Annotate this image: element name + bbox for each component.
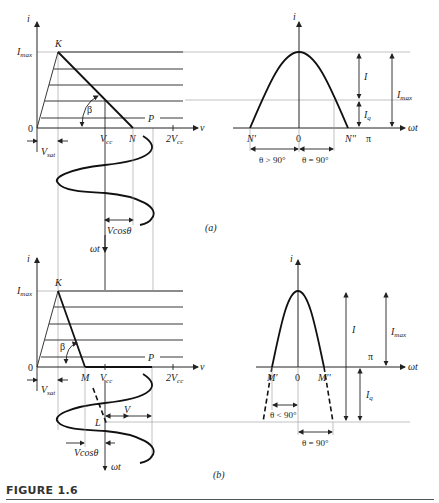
- n-prime-label: N': [246, 133, 257, 144]
- i-amplitude-label: I: [363, 71, 368, 82]
- panel-a-label: (a): [205, 222, 217, 234]
- pi-label: π: [366, 133, 371, 144]
- panel-a-current-waveform: i ωt 0 N' N'' π I Iq Imax θ > 90° θ = 90…: [205, 11, 418, 234]
- caption-rule: [6, 499, 434, 500]
- wt-axis-label: ωt: [90, 243, 100, 254]
- point-p-label: P: [147, 113, 154, 124]
- vcos-theta-label: Vcosθ: [107, 225, 131, 236]
- iq-label: Iq: [363, 109, 371, 122]
- vsat-label-b: Vsat: [41, 384, 56, 397]
- panel-b-output-characteristics: β i v 0 Imax K M P Vcc 2Vcc Vsat ωt V L …: [16, 253, 410, 472]
- theta-gt-90-label: θ > 90°: [259, 155, 286, 165]
- vcos-theta-label-b: Vcosθ: [74, 447, 98, 458]
- vcc-tick-label-b: Vcc: [100, 372, 113, 385]
- theta-lt-90-label: θ < 90°: [270, 410, 297, 420]
- point-k-label-b: K: [54, 277, 63, 288]
- panel-b-label: (b): [213, 469, 225, 481]
- load-line-b: [58, 291, 85, 367]
- vsat-label: Vsat: [41, 146, 56, 159]
- load-line: [58, 52, 133, 128]
- point-n-label: N: [128, 133, 137, 144]
- n-double-prime-label: N'': [344, 133, 357, 144]
- theta-eq-90-label: θ = 90°: [302, 155, 329, 165]
- imax-label: Imax: [16, 46, 33, 59]
- pi-label-b: π: [368, 351, 373, 362]
- panel-a-output-characteristics: β i v 0 Imax K N P Vcc 2Vcc Vsat Vcosθ ω…: [16, 13, 410, 290]
- imax-label-right-b: Imax: [390, 326, 407, 339]
- figure-diagram: β i v 0 Imax K N P Vcc 2Vcc Vsat Vcosθ ω…: [0, 0, 439, 503]
- i-label-right: i: [293, 11, 296, 22]
- i-axis-label-b: i: [27, 253, 30, 264]
- v-amplitude-label: V: [124, 404, 132, 415]
- origin-right-b: 0: [295, 372, 300, 383]
- wt-axis-label-b: ωt: [111, 461, 121, 472]
- panel-b-current-waveform: i ωt 0 M' M'' π I Imax Iq θ < 90° θ = 90…: [213, 253, 418, 481]
- 2vcc-tick-label: 2Vcc: [166, 133, 184, 146]
- i-label-right-b: i: [290, 253, 293, 264]
- vcc-tick-label: Vcc: [100, 133, 113, 146]
- wt-label-right: ωt: [408, 122, 418, 133]
- point-l-label: L: [94, 417, 101, 428]
- 2vcc-tick-label-b: 2Vcc: [166, 372, 184, 385]
- beta-label-b: β: [60, 341, 65, 352]
- origin-label: 0: [28, 123, 33, 134]
- i-amplitude-label-b: I: [351, 324, 356, 335]
- origin-right: 0: [296, 133, 301, 144]
- point-p-label-b: P: [147, 352, 154, 363]
- m-prime-label: M': [266, 372, 278, 383]
- beta-label: β: [87, 104, 92, 115]
- m-double-prime-label: M'': [317, 372, 331, 383]
- imax-label-b: Imax: [16, 285, 33, 298]
- origin-label-b: 0: [28, 362, 33, 373]
- theta-eq-90-label-b: θ = 90°: [302, 438, 329, 448]
- iq-label-b: Iq: [365, 389, 373, 402]
- v-axis-label-b: v: [200, 361, 205, 372]
- i-axis-label: i: [27, 13, 30, 24]
- v-axis-label: v: [200, 122, 205, 133]
- wt-label-right-b: ωt: [408, 361, 418, 372]
- figure-caption: FIGURE 1.6: [6, 484, 78, 497]
- point-k-label: K: [54, 38, 63, 49]
